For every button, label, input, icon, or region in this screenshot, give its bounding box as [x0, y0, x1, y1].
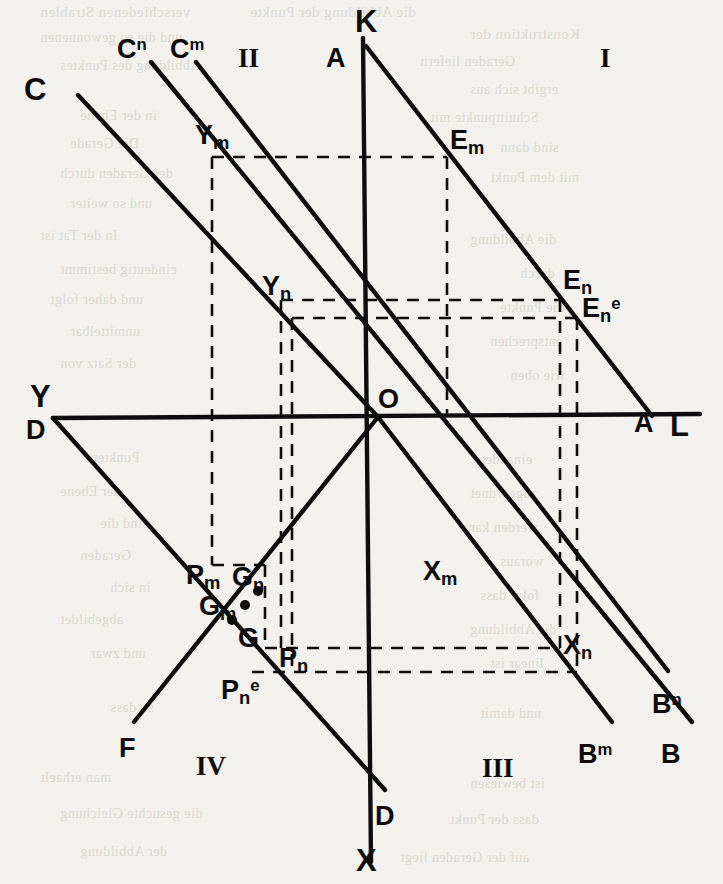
label-d-left: D — [26, 417, 46, 444]
label-x-n: Xn — [563, 632, 592, 663]
label-g-m: Gm — [199, 593, 236, 624]
label-x-m: Xm — [423, 558, 457, 589]
quadrant-label-iv: IV — [196, 753, 226, 780]
label-o: O — [378, 386, 399, 413]
dot-g-m — [240, 600, 250, 610]
label-c-n: Cn — [117, 36, 147, 63]
line-o-bm — [378, 417, 612, 722]
line-ab — [366, 46, 652, 416]
label-e-n-e: Ene — [582, 295, 621, 326]
label-p-n-e: Pne — [221, 677, 260, 708]
label-b-n: Bn — [652, 691, 682, 718]
geometry-diagram-svg — [0, 0, 723, 884]
quadrant-label-ii: II — [238, 45, 259, 72]
axis-kx — [363, 38, 371, 862]
quadrant-label-iii: III — [482, 755, 514, 782]
label-g: G — [238, 625, 259, 652]
label-c: C — [24, 74, 46, 105]
label-y-n: Yn — [262, 273, 291, 304]
axis-label-y: Y — [30, 381, 51, 412]
label-b-m: Bm — [578, 741, 612, 768]
label-f: F — [119, 735, 136, 762]
label-p-n: Pn — [279, 645, 308, 676]
axis-label-l: L — [670, 410, 689, 441]
label-g-n: Gn — [232, 564, 264, 595]
figure-canvas: verschiedenen Strahlendie Abbildung der … — [0, 0, 723, 884]
label-a-top: A — [326, 45, 346, 72]
label-b: B — [661, 741, 681, 768]
label-y-m: Ym — [195, 122, 229, 153]
axis-label-k: K — [355, 6, 377, 37]
solid-lines — [53, 38, 700, 862]
label-p-m: Pm — [186, 562, 220, 593]
label-c-m: Cm — [170, 36, 204, 63]
label-a-right: A — [634, 410, 654, 437]
axis-label-x: X — [356, 845, 377, 876]
label-d-bottom: D — [375, 803, 395, 830]
quadrant-label-i: I — [600, 45, 611, 72]
label-e-m: Em — [450, 127, 484, 158]
